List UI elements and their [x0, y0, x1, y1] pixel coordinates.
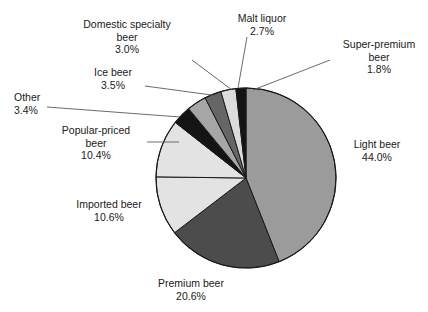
label-premium-beer: Premium beer 20.6%: [141, 277, 241, 302]
label-malt-liquor-line1: Malt liquor: [224, 12, 300, 25]
label-super-premium-beer-line1: Super-premium: [332, 38, 426, 51]
label-popular-priced-beer-line2: beer: [48, 137, 144, 150]
label-other-value: 3.4%: [14, 104, 74, 117]
label-premium-beer-value: 20.6%: [141, 290, 241, 303]
label-light-beer-line1: Light beer: [340, 138, 414, 151]
label-super-premium-beer: Super-premium beer 1.8%: [332, 38, 426, 76]
label-domestic-specialty-beer: Domestic specialty beer 3.0%: [58, 18, 196, 56]
label-other: Other 3.4%: [14, 91, 74, 116]
leader-line-domestic-specialty: [192, 60, 232, 90]
label-ice-beer: Ice beer 3.5%: [80, 66, 146, 91]
pie-slice-group: [156, 88, 336, 268]
label-premium-beer-line1: Premium beer: [141, 277, 241, 290]
label-ice-beer-value: 3.5%: [80, 79, 146, 92]
leader-line-ice-beer: [145, 86, 219, 96]
label-popular-priced-beer-value: 10.4%: [48, 149, 144, 162]
label-light-beer: Light beer 44.0%: [340, 138, 414, 163]
pie-chart-figure: Domestic specialty beer 3.0% Ice beer 3.…: [0, 0, 428, 312]
label-popular-priced-beer-line1: Popular-priced: [48, 124, 144, 137]
label-ice-beer-line1: Ice beer: [80, 66, 146, 79]
leader-line-malt-liquor: [238, 37, 247, 88]
label-imported-beer: Imported beer 10.6%: [63, 198, 155, 223]
label-imported-beer-line1: Imported beer: [63, 198, 155, 211]
label-other-line1: Other: [14, 91, 74, 104]
label-malt-liquor: Malt liquor 2.7%: [224, 12, 300, 37]
label-domestic-specialty-beer-value: 3.0%: [58, 43, 196, 56]
leader-line-super-premium: [253, 60, 330, 90]
label-domestic-specialty-beer-line1: Domestic specialty: [58, 18, 196, 31]
label-malt-liquor-value: 2.7%: [224, 25, 300, 38]
label-super-premium-beer-value: 1.8%: [332, 63, 426, 76]
label-imported-beer-value: 10.6%: [63, 211, 155, 224]
label-popular-priced-beer: Popular-priced beer 10.4%: [48, 124, 144, 162]
label-domestic-specialty-beer-line2: beer: [58, 31, 196, 44]
label-super-premium-beer-line2: beer: [332, 51, 426, 64]
label-light-beer-value: 44.0%: [340, 151, 414, 164]
